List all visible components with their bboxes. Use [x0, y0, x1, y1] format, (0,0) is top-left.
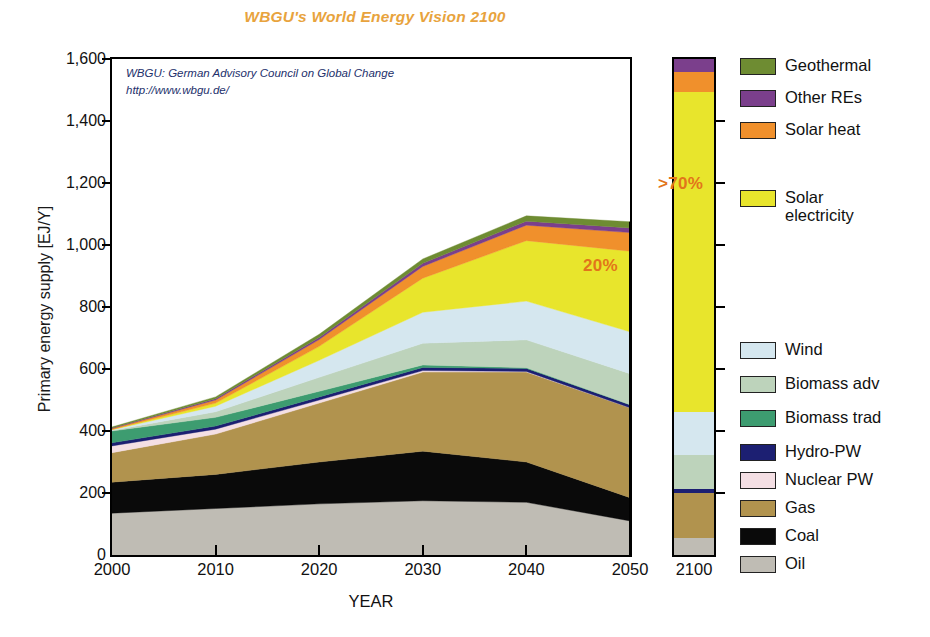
- legend-swatch-icon: [740, 122, 776, 139]
- bar-segment-gas: [674, 493, 714, 538]
- legend-item-solar-electricity[interactable]: Solarelectricity: [740, 188, 854, 225]
- bar-2100-tick-mark: [714, 244, 725, 246]
- source-note-line1: WBGU: German Advisory Council on Global …: [126, 65, 394, 82]
- bar-2100-tick-mark: [714, 368, 725, 370]
- legend-label: Solar heat: [785, 120, 860, 138]
- share-annotation-2100: >70%: [658, 174, 703, 194]
- y-tick-mark: [102, 306, 112, 308]
- legend-swatch-icon: [740, 472, 776, 489]
- bar-segment-wind: [674, 412, 714, 455]
- chart-title: WBGU's World Energy Vision 2100: [110, 8, 640, 26]
- bar-2100-tick-mark: [714, 306, 725, 308]
- bar-2100-tick-mark: [714, 120, 725, 122]
- legend-label: Geothermal: [785, 56, 871, 74]
- legend-label: Oil: [785, 554, 805, 572]
- legend-label: Gas: [785, 498, 815, 516]
- source-note: WBGU: German Advisory Council on Global …: [126, 65, 394, 98]
- y-tick-mark: [102, 58, 112, 60]
- legend-swatch-icon: [740, 376, 776, 393]
- legend-label: Nuclear PW: [785, 470, 873, 488]
- bar-segment-solar-electricity: [674, 92, 714, 411]
- y-tick-mark: [102, 430, 112, 432]
- y-tick-mark: [102, 120, 112, 122]
- legend-item-biomass-trad[interactable]: Biomass trad: [740, 408, 881, 427]
- bar-segment-biomass-adv: [674, 455, 714, 489]
- bar-2100-tick-mark: [714, 182, 725, 184]
- y-tick-label: 800: [44, 298, 106, 316]
- x-tick-mark: [318, 545, 320, 557]
- x-axis-label: YEAR: [110, 592, 632, 611]
- legend-swatch-icon: [740, 528, 776, 545]
- legend-swatch-icon: [740, 90, 776, 107]
- legend-item-nuclear-pw[interactable]: Nuclear PW: [740, 470, 873, 489]
- x-tick-label: 2000: [94, 560, 131, 579]
- bar-segment-other-res: [674, 58, 714, 72]
- x-tick-label: 2030: [404, 560, 441, 579]
- area-series-svg: [112, 59, 630, 555]
- legend-item-wind[interactable]: Wind: [740, 340, 823, 359]
- legend-item-oil[interactable]: Oil: [740, 554, 805, 573]
- legend-item-gas[interactable]: Gas: [740, 498, 815, 517]
- legend: GeothermalOther REsSolar heatSolarelectr…: [740, 50, 930, 570]
- x-tick-mark: [215, 545, 217, 557]
- x-tick-label: 2010: [197, 560, 234, 579]
- legend-swatch-icon: [740, 444, 776, 461]
- y-tick-label: 1,400: [44, 112, 106, 130]
- legend-label: Wind: [785, 340, 823, 358]
- y-tick-mark: [102, 182, 112, 184]
- bar-2100-tick-mark: [714, 430, 725, 432]
- y-tick-mark: [102, 244, 112, 246]
- y-tick-label: 1,000: [44, 236, 106, 254]
- y-tick-label: 1,200: [44, 174, 106, 192]
- legend-item-geothermal[interactable]: Geothermal: [740, 56, 871, 75]
- legend-swatch-icon: [740, 556, 776, 573]
- y-tick-label: 600: [44, 360, 106, 378]
- source-note-line2: http://www.wbgu.de/: [126, 82, 394, 99]
- bar-segment-geothermal: [674, 57, 714, 58]
- legend-label: Solarelectricity: [785, 188, 854, 225]
- x-tick-mark: [525, 545, 527, 557]
- y-tick-label: 400: [44, 422, 106, 440]
- legend-swatch-icon: [740, 342, 776, 359]
- y-tick-label: 1,600: [44, 50, 106, 68]
- legend-swatch-icon: [740, 500, 776, 517]
- legend-swatch-icon: [740, 410, 776, 427]
- y-tick-mark: [102, 368, 112, 370]
- y-tick-mark: [102, 492, 112, 494]
- y-axis-tick-labels: 02004006008001,0001,2001,4001,600: [40, 0, 106, 637]
- legend-item-biomass-adv[interactable]: Biomass adv: [740, 374, 879, 393]
- legend-swatch-icon: [740, 190, 776, 207]
- legend-label: Biomass adv: [785, 374, 879, 392]
- energy-vision-figure: WBGU's World Energy Vision 2100 Primary …: [0, 0, 930, 637]
- legend-item-hydro-pw[interactable]: Hydro-PW: [740, 442, 861, 461]
- legend-item-solar-heat[interactable]: Solar heat: [740, 120, 860, 139]
- bar-2100-tick-mark: [714, 492, 725, 494]
- legend-label: Other REs: [785, 88, 862, 106]
- y-tick-label: 200: [44, 484, 106, 502]
- legend-label: Coal: [785, 526, 819, 544]
- legend-label: Biomass trad: [785, 408, 881, 426]
- bar-segment-hydro-pw: [674, 489, 714, 493]
- bar-segment-solar-heat: [674, 72, 714, 92]
- legend-label: Hydro-PW: [785, 442, 861, 460]
- bar-2100: [672, 57, 716, 557]
- bar-segment-oil: [674, 538, 714, 555]
- x-tick-label: 2040: [508, 560, 545, 579]
- legend-item-other-res[interactable]: Other REs: [740, 88, 862, 107]
- x-tick-label: 2050: [612, 560, 649, 579]
- stacked-area-plot: WBGU: German Advisory Council on Global …: [110, 57, 632, 557]
- share-annotation-2050: 20%: [583, 256, 618, 276]
- legend-swatch-icon: [740, 58, 776, 75]
- x-tick-label: 2020: [301, 560, 338, 579]
- legend-item-coal[interactable]: Coal: [740, 526, 819, 545]
- x-tick-mark: [422, 545, 424, 557]
- x-tick-label-2100: 2100: [676, 560, 713, 579]
- bar-2100-tick-marks: [714, 57, 726, 557]
